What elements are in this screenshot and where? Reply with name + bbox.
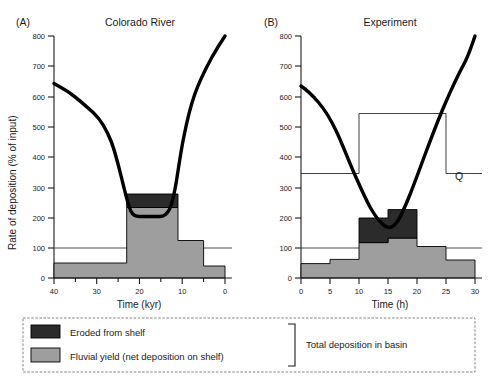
legend-label-fluvial-yield: Fluvial yield (net deposition on shelf) [70,351,224,362]
panel-b: (B) Experiment 0 100 200 300 400 500 600… [264,16,482,310]
panel-a-deposition-curve [54,36,225,217]
panel-b-ytick-600: 600 [279,93,292,102]
legend: Eroded from shelf Fluvial yield (net dep… [23,318,475,372]
panel-a-y-ticks: 0 100 200 300 400 500 600 700 800 [32,32,54,283]
panel-b-q-step-line [301,114,482,174]
panel-b-ytick-200: 200 [279,214,292,223]
legend-bracket-label: Total deposition in basin [306,339,407,350]
panel-a: (A) Colorado River Rate of deposition (%… [7,16,232,310]
y-axis-label: Rate of deposition (% of input) [7,115,18,250]
panel-a-title: Colorado River [105,16,176,28]
panel-a-x-axis-label: Time (kyr) [117,299,162,310]
panel-b-x-axis-label: Time (h) [372,299,409,310]
panel-b-xtick-30: 30 [471,287,479,296]
panel-a-letter: (A) [16,16,30,28]
panel-b-xtick-15: 15 [384,287,392,296]
panel-b-fluvial-yield-area [301,238,475,278]
panel-b-xtick-10: 10 [355,287,363,296]
panel-b-xtick-0: 0 [299,287,303,296]
panel-a-xtick-40: 40 [50,287,58,296]
panel-a-xtick-30: 30 [93,287,101,296]
panel-a-xtick-0: 0 [223,287,227,296]
panel-b-ytick-500: 500 [279,123,292,132]
panel-a-ytick-0: 0 [41,274,45,283]
panel-b-ytick-800: 800 [279,32,292,41]
legend-label-eroded-from-shelf: Eroded from shelf [70,327,145,338]
panel-a-ytick-800: 800 [32,32,45,41]
panel-a-x-ticks: 40 30 20 10 0 [50,278,227,296]
panel-b-letter: (B) [264,16,278,28]
panel-b-ytick-700: 700 [279,62,292,71]
panel-b-xtick-5: 5 [328,287,332,296]
panel-b-ytick-300: 300 [279,184,292,193]
panel-a-ytick-600: 600 [32,93,45,102]
panel-b-deposition-curve [301,36,475,228]
panel-b-y-ticks: 0 100 200 300 400 500 600 700 800 [279,32,301,283]
legend-bracket-icon [288,324,295,366]
legend-swatch-fluvial-yield [31,348,60,362]
panel-b-xtick-20: 20 [413,287,421,296]
panel-b-ytick-400: 400 [279,153,292,162]
panel-b-xtick-25: 25 [442,287,450,296]
figure-root: (A) Colorado River Rate of deposition (%… [0,0,495,381]
panel-a-ytick-700: 700 [32,62,45,71]
panel-a-ytick-400: 400 [32,153,45,162]
panel-a-ytick-100: 100 [32,244,45,253]
panel-a-xtick-20: 20 [135,287,143,296]
panel-b-ytick-0: 0 [288,274,292,283]
panel-a-ytick-500: 500 [32,123,45,132]
panel-b-q-label: Q [455,170,463,182]
panel-a-ytick-300: 300 [32,184,45,193]
panel-a-ytick-200: 200 [32,214,45,223]
panel-b-title: Experiment [363,16,416,28]
panel-b-x-ticks: 0 5 10 15 20 25 30 [299,278,479,296]
figure-svg: (A) Colorado River Rate of deposition (%… [0,0,495,381]
panel-b-ytick-100: 100 [279,244,292,253]
legend-swatch-eroded-from-shelf [31,325,60,338]
panel-a-xtick-10: 10 [178,287,186,296]
